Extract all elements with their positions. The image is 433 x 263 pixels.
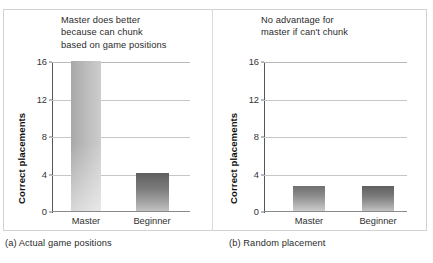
panel-b-gridline-16: 16 <box>264 62 407 63</box>
panel-a-tickmark-12 <box>49 99 52 100</box>
panel-b-ytick-0: 0 <box>254 207 259 217</box>
panel-b-gridline-0: 0 <box>264 212 407 213</box>
panel-b-caption: (b) Random placement <box>229 238 325 248</box>
panel-b-tickmark-16 <box>261 62 264 63</box>
panel-a-xtick-master: Master <box>72 216 100 226</box>
figure-container: Master does better because can chunk bas… <box>0 0 433 263</box>
panel-b-tickmark-12 <box>261 99 264 100</box>
chart-panel-a: Master does better because can chunk bas… <box>0 0 212 263</box>
panel-b-ytick-16: 16 <box>249 57 259 67</box>
panel-a-ytick-16: 16 <box>37 57 47 67</box>
panel-a-gridline-0: 0 <box>52 212 190 213</box>
panel-b-ytick-4: 4 <box>254 170 259 180</box>
panel-b-ytick-8: 8 <box>254 132 259 142</box>
panel-b-xtick-master: Master <box>295 216 323 226</box>
panel-a-ytick-8: 8 <box>42 132 47 142</box>
panel-b-bar-beginner[interactable]: Beginner <box>362 186 394 211</box>
panel-a-ytick-4: 4 <box>42 170 47 180</box>
panel-a-y-axis-label: Correct placements <box>16 113 27 204</box>
panel-a-plot-area: 16 12 8 4 0 Master Begi <box>52 62 190 212</box>
panel-a-bar-beginner[interactable]: Beginner <box>136 173 169 211</box>
panel-a-caption: (a) Actual game positions <box>5 238 112 248</box>
panel-a-ytick-12: 12 <box>37 95 47 105</box>
panel-b-tickmark-8 <box>261 137 264 138</box>
panel-a-bar-master[interactable]: Master <box>71 61 101 211</box>
panel-a-tickmark-4 <box>49 174 52 175</box>
panel-b-tickmark-0 <box>261 212 264 213</box>
panel-b-ytick-12: 12 <box>249 95 259 105</box>
panel-a-tickmark-0 <box>49 212 52 213</box>
panel-b-gridline-4: 4 <box>264 175 407 176</box>
panel-a-tickmark-16 <box>49 62 52 63</box>
panel-b-y-axis-label: Correct placements <box>228 113 239 204</box>
panel-b-xtick-beginner: Beginner <box>359 216 396 226</box>
panel-a-xtick-beginner: Beginner <box>133 216 170 226</box>
panel-b-bar-master[interactable]: Master <box>293 186 325 211</box>
panel-b-tickmark-4 <box>261 174 264 175</box>
panel-b-gridline-8: 8 <box>264 137 407 138</box>
panel-b-plot-area: 16 12 8 4 0 Master Beginner <box>264 62 407 212</box>
chart-panel-b: No advantage for master if can't chunk C… <box>212 0 433 263</box>
panel-a-tickmark-8 <box>49 137 52 138</box>
panel-b-title: No advantage for master if can't chunk <box>261 14 348 39</box>
panel-b-gridline-12: 12 <box>264 100 407 101</box>
panel-a-ytick-0: 0 <box>42 207 47 217</box>
panel-a-title: Master does better because can chunk bas… <box>61 14 167 51</box>
